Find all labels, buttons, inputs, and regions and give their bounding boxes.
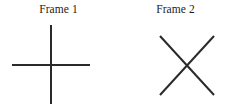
figure-root: Frame 1 Frame 2 (0, 0, 234, 107)
plus-cross-glyph (12, 25, 90, 104)
glyph-canvas (0, 0, 234, 107)
x-cross-glyph (160, 36, 214, 95)
